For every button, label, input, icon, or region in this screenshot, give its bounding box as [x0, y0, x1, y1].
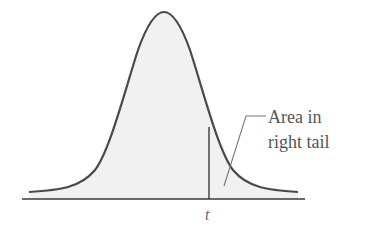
t-distribution-diagram: Area in right tail t: [0, 0, 368, 228]
curve-fill-area: [29, 12, 298, 199]
annotation-line-1: Area in: [268, 107, 321, 127]
t-marker-label: t: [205, 206, 210, 223]
annotation-line-2: right tail: [268, 132, 330, 152]
